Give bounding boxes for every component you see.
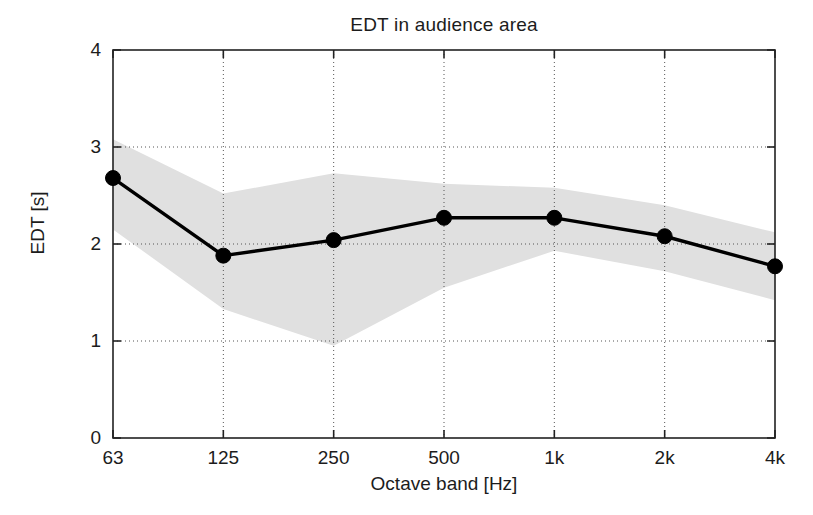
x-tick-label: 125 bbox=[188, 448, 258, 467]
x-tick-label: 250 bbox=[299, 448, 369, 467]
data-point-marker bbox=[547, 210, 562, 225]
data-point-marker bbox=[216, 248, 231, 263]
chart-title: EDT in audience area bbox=[113, 14, 775, 36]
plot-area bbox=[0, 0, 813, 515]
x-tick-label: 2k bbox=[630, 448, 700, 467]
x-tick-label: 500 bbox=[409, 448, 479, 467]
data-point-marker bbox=[657, 229, 672, 244]
y-axis-label: EDT [s] bbox=[27, 153, 49, 293]
y-tick-label: 2 bbox=[57, 234, 101, 253]
data-point-marker bbox=[768, 259, 783, 274]
data-point-marker bbox=[326, 233, 341, 248]
x-tick-label: 1k bbox=[519, 448, 589, 467]
y-tick-label: 1 bbox=[57, 331, 101, 350]
edt-chart-figure: EDT in audience area EDT [s] Octave band… bbox=[0, 0, 813, 515]
y-tick-label: 3 bbox=[57, 137, 101, 156]
x-tick-label: 63 bbox=[78, 448, 148, 467]
y-tick-label: 4 bbox=[57, 40, 101, 59]
data-point-marker bbox=[106, 171, 121, 186]
x-tick-label: 4k bbox=[740, 448, 810, 467]
y-tick-label: 0 bbox=[57, 428, 101, 447]
data-point-marker bbox=[437, 210, 452, 225]
x-axis-label: Octave band [Hz] bbox=[113, 473, 775, 495]
